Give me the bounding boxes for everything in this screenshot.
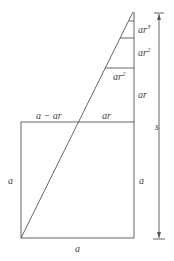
- label-a-left: a: [8, 175, 13, 186]
- label-ar3: ar3: [138, 23, 151, 35]
- arrow-down-icon: [157, 232, 161, 238]
- label-ar-top: ar: [102, 110, 111, 121]
- label-a-minus-ar: a − ar: [36, 110, 62, 121]
- label-ar2-inner: ar2: [113, 70, 126, 82]
- label-ar-right: ar: [138, 89, 147, 100]
- square: [21, 122, 134, 238]
- label-a-bottom: a: [75, 243, 80, 254]
- diagonal-line: [21, 12, 133, 238]
- diagram-canvas: ar3 ar2 ar2 ar a − ar ar a a a s: [0, 0, 174, 261]
- arrow-up-icon: [157, 14, 161, 20]
- label-a-right: a: [139, 175, 144, 186]
- label-s: s: [155, 121, 159, 132]
- label-ar2-right: ar2: [138, 46, 151, 58]
